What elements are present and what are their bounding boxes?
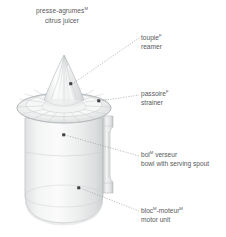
title-french: presse-agrumesM [14,6,110,16]
leader-dot-bowl [62,133,65,136]
callout-strainer-french-term: passoire [141,90,166,97]
callout-reamer-french: toupieF [141,33,162,42]
title-english: citrus juicer [14,16,110,26]
handle-shape [103,116,113,193]
callout-reamer: toupieF reamer [141,33,162,52]
callout-bowl-french: bolM verseur [141,150,209,159]
title-french-term: presse-agrumes [36,7,84,14]
callout-motor-french-term: bloc [141,207,153,214]
callout-reamer-gender: F [159,33,162,38]
callout-strainer: passoireF strainer [141,89,169,108]
callout-motor-unit: blocM-moteurM motor unit [141,206,183,225]
callout-strainer-english: strainer [141,98,169,107]
leader-line-reamer [72,38,139,84]
title-french-gender: M [84,6,88,11]
callout-motor-english: motor unit [141,215,183,224]
callout-strainer-french: passoireF [141,89,169,98]
leader-dot-strainer [97,99,100,102]
callout-bowl: bolM verseur bowl with serving spout [141,150,209,169]
callout-motor-french-tail: -moteur [157,207,180,214]
leader-line-strainer [100,95,139,101]
callout-motor-gender-2: M [179,206,183,211]
callout-bowl-english: bowl with serving spout [141,159,209,168]
citrus-juicer-drawing [0,0,226,237]
leader-dot-motor [77,186,80,189]
callout-reamer-english: reamer [141,42,162,51]
callout-strainer-gender: F [166,89,169,94]
illustration-canvas: presse-agrumesM citrus juicer toupieF re… [0,0,226,237]
callout-bowl-french-tail: verseur [153,151,177,158]
reamer-shape [44,55,84,108]
illustration-title: presse-agrumesM citrus juicer [14,6,110,25]
callout-bowl-french-term: bol [141,151,150,158]
callout-reamer-french-term: toupie [141,34,159,41]
leader-dot-reamer [69,82,72,85]
callout-motor-french: blocM-moteurM [141,206,183,215]
